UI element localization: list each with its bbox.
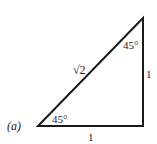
horizontal-leg-label: 1: [88, 131, 94, 143]
top-angle-label: 45°: [123, 39, 138, 51]
hypotenuse-label: √2: [73, 63, 86, 77]
figure-label: (a): [7, 119, 21, 133]
vertical-leg-label: 1: [146, 68, 152, 80]
triangle: [38, 18, 143, 126]
right-triangle-diagram: (a) 45° 45° √2 1 1: [0, 0, 157, 144]
bottom-angle-label: 45°: [52, 113, 67, 125]
